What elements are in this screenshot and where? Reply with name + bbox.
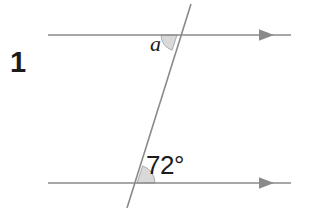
lower-line-arrowhead	[259, 177, 274, 189]
upper-line-arrowhead	[259, 29, 274, 41]
problem-number: 1	[10, 48, 26, 77]
angle-label-a: a	[150, 33, 161, 55]
geometry-figure: 1 a 72°	[0, 0, 311, 215]
angle-label-72-degrees: 72°	[146, 152, 184, 178]
angle-arc-a	[161, 35, 177, 50]
